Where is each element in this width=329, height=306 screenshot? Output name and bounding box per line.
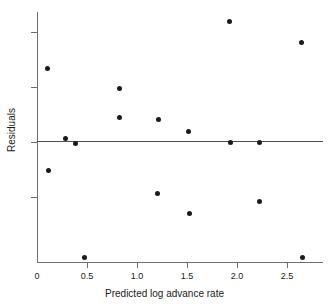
data-point <box>257 140 262 145</box>
data-point <box>46 168 51 173</box>
data-point <box>45 66 50 71</box>
data-point <box>117 115 122 120</box>
data-point <box>117 86 122 91</box>
plot-area <box>0 0 329 306</box>
data-point <box>73 141 78 146</box>
y-axis-title: Residuals <box>7 85 17 175</box>
data-point <box>155 191 160 196</box>
data-point <box>227 19 232 24</box>
data-point <box>299 40 304 45</box>
data-point <box>156 117 161 122</box>
data-point <box>187 211 192 216</box>
data-point <box>257 199 262 204</box>
data-point <box>82 255 87 260</box>
data-point <box>228 140 233 145</box>
residual-scatter-plot-figure: 0.20.10-0.100.51.01.52.02.5 Predicted lo… <box>0 0 329 306</box>
x-axis-title: Predicted log advance rate <box>0 289 329 299</box>
data-point <box>63 136 68 141</box>
data-point <box>300 255 305 260</box>
data-point <box>186 129 191 134</box>
